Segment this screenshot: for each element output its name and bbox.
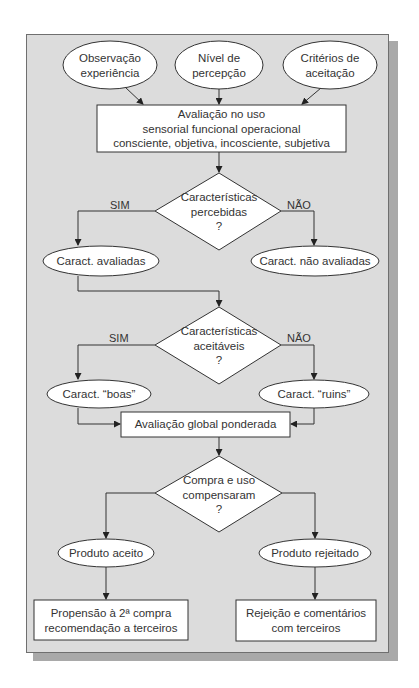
global-evaluation-label: Avaliação global ponderada: [121, 417, 290, 432]
outcome2-yes-label: Caract. “boas”: [47, 387, 151, 402]
outcome1-no-label: Caract. não avaliadas: [251, 254, 379, 269]
final-no-label: Rejeição e comentárioscom terceiros: [236, 606, 376, 635]
decision3-label: Compra e usocompensaram?: [169, 473, 269, 517]
input-observacao-label: Observaçãoexperiência: [63, 51, 157, 80]
input-criterios-label: Critérios deaceitação: [283, 51, 377, 80]
outcome2-no-label: Caract. “ruins”: [259, 387, 369, 402]
decision1-no-label: NÃO: [287, 199, 311, 211]
decision2-no-label: NÃO: [287, 332, 311, 344]
outcome3-yes-label: Produto aceito: [58, 546, 154, 561]
outcome1-yes-label: Caract. avaliadas: [43, 254, 159, 269]
decision1-label: Característicaspercebidas?: [169, 190, 269, 234]
outcome3-no-label: Produto rejeitado: [259, 546, 371, 561]
evaluation-box-label: Avaliação no uso sensorial funcional ope…: [97, 107, 346, 151]
decision2-label: Característicasaceitáveis?: [169, 324, 269, 368]
final-yes-label: Propensão à 2ª comprarecomendação a terc…: [34, 606, 188, 635]
decision1-yes-label: SIM: [110, 199, 130, 211]
decision2-yes-label: SIM: [109, 332, 129, 344]
input-nivel-label: Nível depercepção: [175, 51, 263, 80]
